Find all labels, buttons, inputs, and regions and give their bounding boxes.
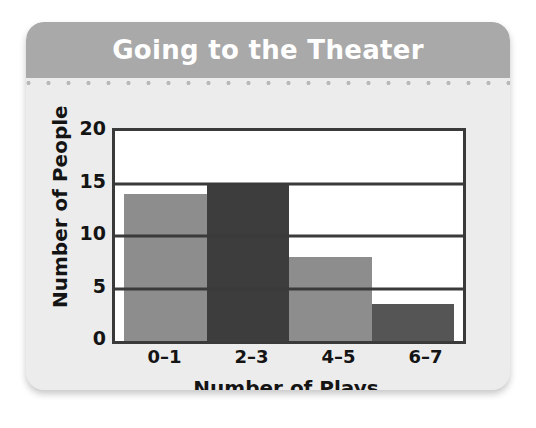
x-axis-tick-label: 2–3 <box>208 346 295 367</box>
x-axis-tick-label: 0–1 <box>121 346 208 367</box>
page-title: Going to the Theater <box>112 35 424 65</box>
dotted-separator <box>26 79 510 88</box>
x-axis-tick-labels: 0–12–34–56–7 <box>121 346 469 367</box>
x-axis-tick-label: 6–7 <box>382 346 469 367</box>
bar <box>124 194 207 341</box>
gridline <box>115 287 463 290</box>
y-axis-tick-labels: 05101520 <box>70 128 106 338</box>
bar-chart: Number of People 05101520 0–12–34–56–7 N… <box>26 88 510 390</box>
y-axis-tick-label: 20 <box>80 119 106 138</box>
y-axis-tick-label: 0 <box>93 329 106 348</box>
y-axis-title: Number of People <box>48 108 72 308</box>
y-axis-tick-label: 15 <box>80 171 106 190</box>
chart-card: Going to the Theater Number of People 05… <box>26 22 510 390</box>
plot-inner <box>115 131 463 341</box>
plot-area <box>112 128 466 344</box>
x-axis-tick-label: 4–5 <box>295 346 382 367</box>
gridline <box>115 182 463 185</box>
chart-header-band: Going to the Theater <box>26 22 510 78</box>
x-axis-title: Number of Plays <box>112 376 460 390</box>
bar <box>289 257 372 341</box>
bar <box>372 304 455 341</box>
y-axis-tick-label: 10 <box>80 224 106 243</box>
bar <box>207 184 290 342</box>
gridline <box>115 235 463 238</box>
y-axis-tick-label: 5 <box>93 276 106 295</box>
